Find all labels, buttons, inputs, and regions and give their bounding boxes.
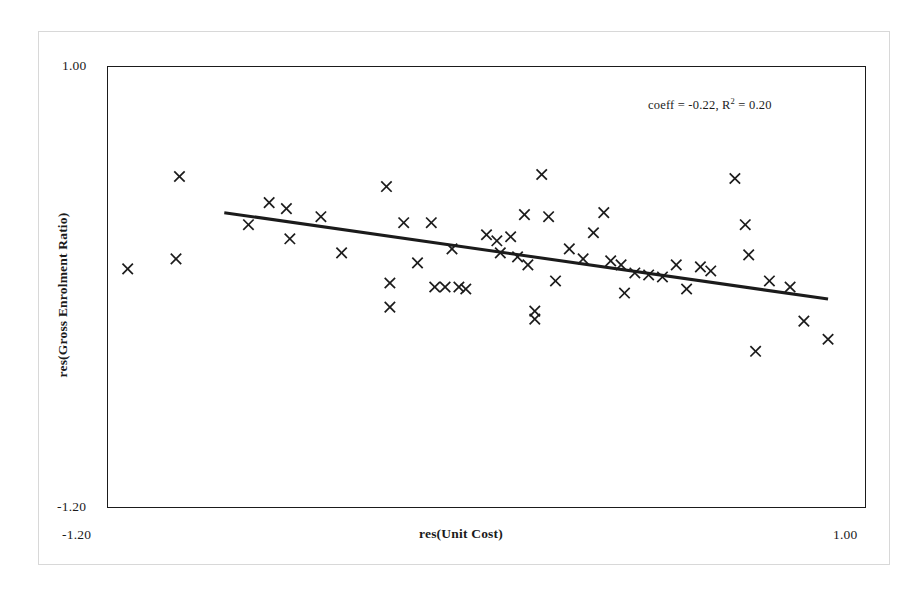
annotation-coeff-text: coeff = -0.22, R [648, 98, 731, 112]
y-axis-title: res(Gross Enrolment Ratio) [55, 180, 71, 410]
scatter-marker [550, 276, 560, 286]
y-axis-tick-max: 1.00 [62, 58, 86, 74]
scatter-marker [430, 282, 440, 292]
scatter-marker [399, 218, 409, 228]
data-point-markers [123, 169, 834, 356]
scatter-marker [599, 207, 609, 217]
y-axis-tick-min: -1.20 [57, 499, 86, 515]
scatter-marker [505, 232, 515, 242]
scatter-marker [336, 248, 346, 258]
scatter-marker [764, 276, 774, 286]
scatter-marker [730, 173, 740, 183]
scatter-marker [588, 228, 598, 238]
scatter-marker [519, 209, 529, 219]
scatter-marker [385, 302, 395, 312]
scatter-marker [440, 282, 450, 292]
scatter-marker [523, 260, 533, 270]
scatter-marker [537, 169, 547, 179]
scatter-marker [619, 288, 629, 298]
scatter-marker [492, 236, 502, 246]
scatter-marker [426, 218, 436, 228]
scatter-marker [695, 262, 705, 272]
scatter-marker [740, 220, 750, 230]
scatter-marker [243, 220, 253, 230]
scatter-marker [316, 211, 326, 221]
scatter-marker [744, 250, 754, 260]
scatter-marker [564, 244, 574, 254]
scatter-marker [671, 260, 681, 270]
statistics-annotation: coeff = -0.22, R2 = 0.20 [648, 96, 772, 113]
scatter-marker [785, 282, 795, 292]
annotation-rsq-value: = 0.20 [735, 98, 772, 112]
scatter-marker [681, 284, 691, 294]
scatter-marker [750, 346, 760, 356]
regression-trend-line [224, 213, 828, 299]
x-axis-title: res(Unit Cost) [0, 526, 922, 542]
chart-canvas [0, 0, 922, 599]
scatter-marker [454, 282, 464, 292]
scatter-marker [174, 171, 184, 181]
scatter-marker [530, 314, 540, 324]
scatter-marker [264, 197, 274, 207]
scatter-marker [171, 254, 181, 264]
scatter-marker [799, 316, 809, 326]
scatter-marker [706, 266, 716, 276]
scatter-marker [281, 203, 291, 213]
scatter-marker [606, 256, 616, 266]
scatter-marker [285, 234, 295, 244]
scatter-marker [385, 278, 395, 288]
scatter-marker [461, 284, 471, 294]
scatter-plot-figure: 1.00 -1.20 -1.20 1.00 res(Unit Cost) res… [0, 0, 922, 599]
scatter-marker [381, 181, 391, 191]
scatter-marker [123, 264, 133, 274]
scatter-marker [543, 211, 553, 221]
scatter-marker [412, 258, 422, 268]
scatter-marker [823, 334, 833, 344]
scatter-marker [481, 230, 491, 240]
trend-line-segment [224, 213, 828, 299]
